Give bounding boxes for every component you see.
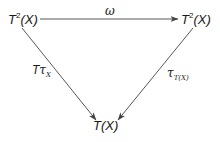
label-left-arrow: TτX [32,64,51,79]
node-bottom: T(X) [93,119,118,132]
node-base: T [8,12,16,27]
tau-symbol: τ [39,63,46,77]
node-argument: (X) [101,118,118,133]
node-top-right: T2(X) [181,12,211,26]
node-base: T [181,12,189,27]
label-subscript: X [46,71,51,79]
label-right-arrow: τT(X) [167,67,189,82]
label-omega: ω [105,5,115,17]
node-top-left: T2(X) [8,12,38,26]
tau-symbol: τ [167,66,174,80]
node-argument: (X) [20,12,37,27]
label-subscript: T(X) [174,74,189,82]
node-base: T [93,118,101,133]
node-argument: (X) [193,12,210,27]
omega-symbol: ω [105,4,115,18]
